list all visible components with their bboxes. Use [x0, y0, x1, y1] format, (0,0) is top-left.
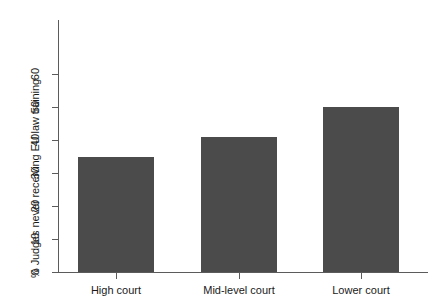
x-tick-label-high-court: High court [56, 283, 176, 297]
y-tick-label: 0 [28, 257, 42, 287]
y-tick-mark [52, 107, 58, 108]
x-tick-mark [239, 273, 240, 279]
y-tick-mark [52, 140, 58, 141]
x-tick-label-lower-court: Lower court [301, 283, 421, 297]
y-tick-label: 10 [28, 224, 42, 254]
y-tick-mark [52, 173, 58, 174]
x-tick-mark [116, 273, 117, 279]
y-tick-label: 60 [28, 59, 42, 89]
bar-high-court [78, 157, 154, 273]
y-tick-label: 50 [28, 92, 42, 122]
bar-mid-level-court [201, 137, 277, 272]
y-tick-mark [52, 74, 58, 75]
x-tick-label-mid-level-court: Mid-level court [179, 283, 299, 297]
x-axis-line [58, 272, 428, 273]
y-tick-mark [52, 206, 58, 207]
bar-chart: % Judges never receiving EU law training… [0, 0, 441, 308]
x-tick-mark [361, 273, 362, 279]
y-tick-label: 20 [28, 191, 42, 221]
y-tick-mark [52, 239, 58, 240]
y-tick-label: 30 [28, 158, 42, 188]
y-tick-mark [52, 272, 58, 273]
y-tick-label: 40 [28, 125, 42, 155]
y-axis-line [58, 20, 59, 273]
bar-lower-court [323, 107, 399, 272]
